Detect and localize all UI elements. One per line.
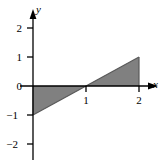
x-tick-label-2: 2 — [131, 95, 147, 106]
graph-figure: y x 2 1 0 −1 −2 1 2 — [0, 0, 165, 166]
x-tick-label-1: 1 — [78, 95, 94, 106]
x-axis-label: x — [153, 79, 158, 90]
y-tick-label-minus-1: −1 — [2, 110, 18, 121]
y-tick-label-1: 1 — [6, 52, 22, 63]
y-tick-label-minus-2: −2 — [2, 139, 18, 150]
y-tick-label-0: 0 — [6, 81, 22, 92]
y-axis-label: y — [36, 4, 41, 15]
plot-area — [0, 0, 165, 166]
y-tick-label-2: 2 — [6, 23, 22, 34]
